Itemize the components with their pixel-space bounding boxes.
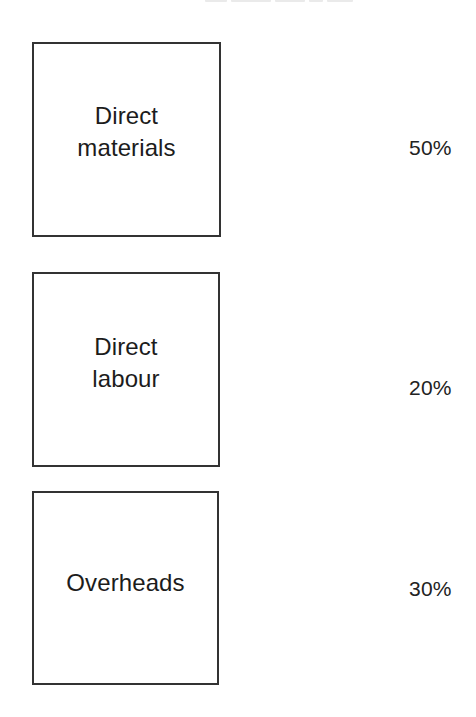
direct-materials-percentage: 50%	[409, 136, 452, 160]
direct-labour-percentage: 20%	[409, 376, 452, 400]
direct-materials-box: Direct materials	[32, 42, 221, 237]
overheads-percentage: 30%	[409, 577, 452, 601]
overheads-box: Overheads	[32, 491, 219, 685]
direct-labour-box: Direct labour	[32, 272, 220, 467]
direct-labour-label: Direct labour	[92, 331, 159, 395]
cut-off-title	[205, 0, 385, 4]
overheads-label: Overheads	[66, 567, 184, 599]
direct-materials-label: Direct materials	[77, 100, 175, 164]
